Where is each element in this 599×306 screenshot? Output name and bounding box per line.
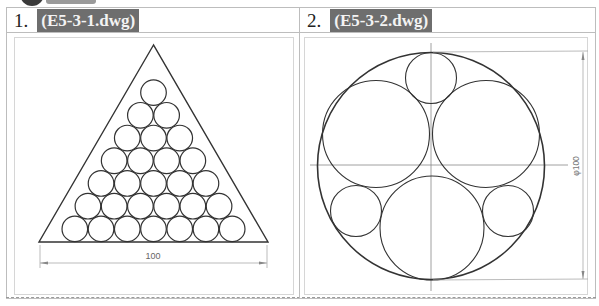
circle-drawing: φ100	[0, 0, 599, 306]
bottom-right-small-circle	[483, 186, 534, 237]
left-large-circle	[323, 81, 430, 188]
dim-label-diameter-100: φ100	[571, 156, 581, 176]
dim-extension-top	[433, 51, 588, 52]
bottom-large-circle	[380, 176, 484, 280]
dim-arrow-bottom	[582, 271, 585, 279]
dim-extension-bottom	[433, 279, 588, 280]
dim-arrow-top	[582, 52, 585, 60]
bottom-left-small-circle	[331, 186, 382, 237]
right-large-circle	[433, 81, 540, 188]
